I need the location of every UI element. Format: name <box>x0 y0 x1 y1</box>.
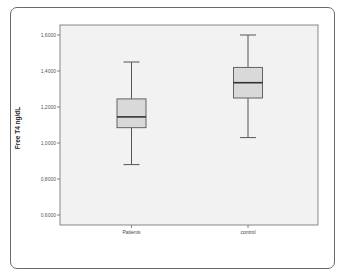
y-tick-label: 1,4000 <box>41 68 57 74</box>
x-tick-label: Patients <box>122 229 141 235</box>
x-axis: Patientscontrol <box>122 225 255 235</box>
plot-area <box>60 25 318 225</box>
x-tick-label: control <box>240 229 255 235</box>
y-tick-label: 1,0000 <box>41 140 57 146</box>
y-tick-label: 0,8000 <box>41 176 57 182</box>
y-tick-label: 1,2000 <box>41 104 57 110</box>
y-axis-label: Free T4 ng/dL <box>14 107 22 150</box>
y-axis: 0,60000,80001,00001,20001,40001,6000 <box>41 32 60 218</box>
y-tick-label: 1,6000 <box>41 32 57 38</box>
y-tick-label: 0,6000 <box>41 212 57 218</box>
iqr-box <box>117 99 146 128</box>
